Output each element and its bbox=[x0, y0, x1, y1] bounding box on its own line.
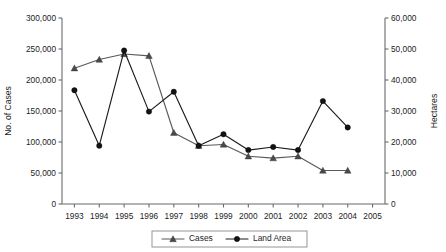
data-point-land-area bbox=[72, 88, 77, 93]
data-point-land-area bbox=[121, 48, 126, 53]
data-point-land-area bbox=[97, 143, 102, 148]
chart-legend: CasesLand Area bbox=[152, 231, 307, 247]
right-axis: 010,00020,00030,00040,00050,00060,000 bbox=[385, 13, 417, 209]
x-tick-label: 2005 bbox=[363, 211, 382, 221]
data-series-group bbox=[71, 48, 351, 173]
series-line-land-area bbox=[74, 51, 347, 151]
right-tick-label: 50,000 bbox=[391, 44, 417, 54]
left-tick-label: 50,000 bbox=[31, 168, 57, 178]
left-tick-label: 0 bbox=[51, 199, 56, 209]
data-point-land-area bbox=[246, 147, 251, 152]
left-tick-label: 150,000 bbox=[26, 106, 56, 116]
right-tick-label: 0 bbox=[391, 199, 396, 209]
left-tick-label: 100,000 bbox=[26, 137, 56, 147]
left-axis: 050,000100,000150,000200,000250,000300,0… bbox=[26, 13, 62, 209]
right-tick-label: 10,000 bbox=[391, 168, 417, 178]
right-tick-label: 20,000 bbox=[391, 137, 417, 147]
x-tick-label: 2004 bbox=[338, 211, 357, 221]
right-tick-label: 40,000 bbox=[391, 75, 417, 85]
y-axis-title-left: No. of Cases bbox=[3, 86, 13, 136]
x-tick-label: 1994 bbox=[90, 211, 109, 221]
x-tick-label: 2002 bbox=[289, 211, 308, 221]
x-tick-label: 1996 bbox=[140, 211, 159, 221]
x-axis: 1993199419951996199719981999200020012002… bbox=[62, 204, 385, 221]
legend-marker-land-area bbox=[234, 236, 239, 241]
data-point-land-area bbox=[146, 109, 151, 114]
data-point-land-area bbox=[320, 98, 325, 103]
x-tick-label: 2000 bbox=[239, 211, 258, 221]
data-point-land-area bbox=[345, 125, 350, 130]
x-tick-label: 1998 bbox=[189, 211, 208, 221]
x-tick-label: 1995 bbox=[115, 211, 134, 221]
x-tick-label: 2003 bbox=[314, 211, 333, 221]
x-tick-label: 1999 bbox=[214, 211, 233, 221]
legend-label-cases: Cases bbox=[189, 233, 213, 243]
data-point-land-area bbox=[196, 143, 201, 148]
left-tick-label: 300,000 bbox=[26, 13, 56, 23]
y-axis-title-right: Hectares bbox=[429, 94, 439, 128]
x-tick-label: 1993 bbox=[65, 211, 84, 221]
data-point-land-area bbox=[221, 132, 226, 137]
legend-label-land-area: Land Area bbox=[253, 233, 292, 243]
data-point-land-area bbox=[270, 144, 275, 149]
x-tick-label: 1997 bbox=[165, 211, 184, 221]
left-tick-label: 250,000 bbox=[26, 44, 56, 54]
x-tick-label: 2001 bbox=[264, 211, 283, 221]
right-tick-label: 30,000 bbox=[391, 106, 417, 116]
data-point-land-area bbox=[295, 147, 300, 152]
series-line-cases bbox=[74, 54, 347, 171]
data-point-land-area bbox=[171, 89, 176, 94]
chart-container: 050,000100,000150,000200,000250,000300,0… bbox=[0, 0, 446, 252]
line-chart: 050,000100,000150,000200,000250,000300,0… bbox=[0, 0, 446, 252]
left-tick-label: 200,000 bbox=[26, 75, 56, 85]
right-tick-label: 60,000 bbox=[391, 13, 417, 23]
data-point-cases bbox=[171, 129, 178, 135]
